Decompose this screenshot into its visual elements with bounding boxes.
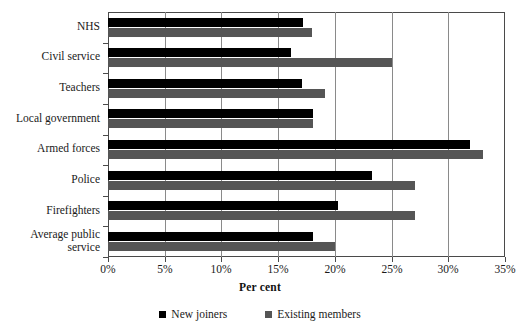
y-axis-label: NHS [0,20,100,33]
x-axis-tick-label: 35% [485,263,520,275]
bar-chart: NHSCivil serviceTeachersLocal government… [0,0,520,333]
x-axis-tick [448,257,449,262]
bar-new-joiners [108,79,302,88]
bar-group [108,73,505,104]
x-axis-tick [278,257,279,262]
x-axis-tick [335,257,336,262]
x-axis-tick-label: 20% [315,263,355,275]
y-axis-label: Average public service [0,228,100,254]
bar-new-joiners [108,48,291,57]
x-axis-tick [505,257,506,262]
x-axis-title: Per cent [0,281,520,293]
x-axis-tick-label: 0% [88,263,128,275]
y-axis-tick [103,165,108,166]
x-axis-tick-label: 30% [428,263,468,275]
y-axis-label: Police [0,173,100,186]
bar-existing-members [108,119,313,128]
bar-new-joiners [108,18,303,27]
bar-group [108,135,505,166]
bar-new-joiners [108,201,338,210]
legend-item-existing-members: Existing members [265,308,360,320]
bar-new-joiners [108,171,372,180]
bar-group [108,165,505,196]
bar-existing-members [108,58,392,67]
bar-existing-members [108,89,325,98]
bar-group [108,196,505,227]
y-axis-label: Local government [0,112,100,125]
bar-group [108,104,505,135]
y-axis-label: Civil service [0,50,100,63]
bar-group [108,43,505,74]
legend-swatch-new-joiners-icon [159,311,166,318]
legend: New joiners Existing members [0,308,520,320]
x-axis-tick-label: 15% [258,263,298,275]
x-axis-tick [165,257,166,262]
bar-existing-members [108,211,415,220]
y-axis-tick [103,226,108,227]
bar-existing-members [108,28,312,37]
bar-existing-members [108,242,335,251]
y-axis-tick [103,73,108,74]
bar-existing-members [108,150,483,159]
x-axis-tick-label: 10% [201,263,241,275]
x-axis-tick [392,257,393,262]
bar-new-joiners [108,109,313,118]
legend-swatch-existing-members-icon [265,311,272,318]
y-axis-tick [103,43,108,44]
legend-item-new-joiners: New joiners [159,308,227,320]
bar-new-joiners [108,140,470,149]
bar-new-joiners [108,232,313,241]
y-axis-label: Teachers [0,81,100,94]
y-axis-tick [103,196,108,197]
x-axis-tick [108,257,109,262]
bar-group [108,12,505,43]
x-axis-tick [221,257,222,262]
x-axis-tick-label: 5% [145,263,185,275]
y-axis-tick [103,135,108,136]
legend-label-new-joiners: New joiners [171,308,227,320]
x-axis-tick-label: 25% [372,263,412,275]
bar-existing-members [108,181,415,190]
bar-group [108,226,505,257]
y-axis-tick [103,104,108,105]
y-axis-label: Firefighters [0,204,100,217]
legend-label-existing-members: Existing members [277,308,360,320]
y-axis-label: Armed forces [0,142,100,155]
